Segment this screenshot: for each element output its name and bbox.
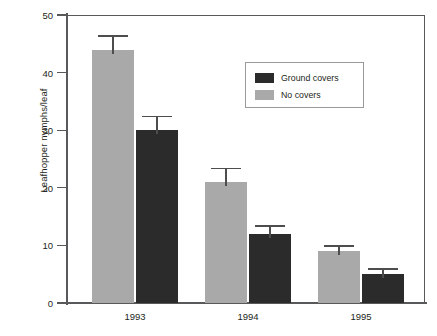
legend-swatch-icon-no-covers [255,90,274,100]
bar-1994-ground-covers [249,234,291,303]
error-bar-stem [225,168,226,186]
legend-item-no-covers: No covers [255,89,321,100]
error-bar-stem [156,116,157,134]
error-bar-stem [338,245,339,255]
bar-1995-no-covers [318,251,360,303]
bar-1993-no-covers [92,50,134,303]
error-bar-cap [255,225,285,226]
error-bar-cap [211,168,241,169]
x-category-label-1995: 1995 [350,311,371,322]
x-category-label-1994: 1994 [237,311,258,322]
y-tick-mark [57,14,66,15]
error-bar-cap [98,35,128,36]
y-tick-label: 10 [0,240,53,251]
y-tick-label: 50 [0,10,53,21]
bar-1994-no-covers [205,182,247,303]
error-bar-cap [324,245,354,246]
y-tick-mark [57,245,66,246]
y-tick-label: 20 [0,182,53,193]
error-bar-stem [112,35,113,53]
legend-label-ground-covers: Ground covers [281,73,339,83]
x-category-label-1993: 1993 [124,311,145,322]
legend-swatch-icon-ground-covers [255,73,274,83]
error-bar-cap [142,116,172,117]
y-tick-mark [57,187,66,188]
error-bar-cap [368,268,398,269]
error-bar-stem [269,225,270,238]
y-tick-label: 40 [0,67,53,78]
bar-chart-figure: Leafhopper nymphs/leaf 01020304050 19931… [0,0,437,336]
legend-label-no-covers: No covers [281,90,321,100]
bars-layer [66,15,425,303]
y-tick-label: 30 [0,125,53,136]
error-bar-stem [382,268,383,278]
bar-1995-ground-covers [362,274,404,303]
bar-1993-ground-covers [136,130,178,303]
y-tick-mark [57,130,66,131]
legend-box: Ground covers No covers [245,62,364,108]
legend-item-ground-covers: Ground covers [255,72,339,83]
y-tick-mark [57,72,66,73]
y-tick-label: 0 [0,298,53,309]
